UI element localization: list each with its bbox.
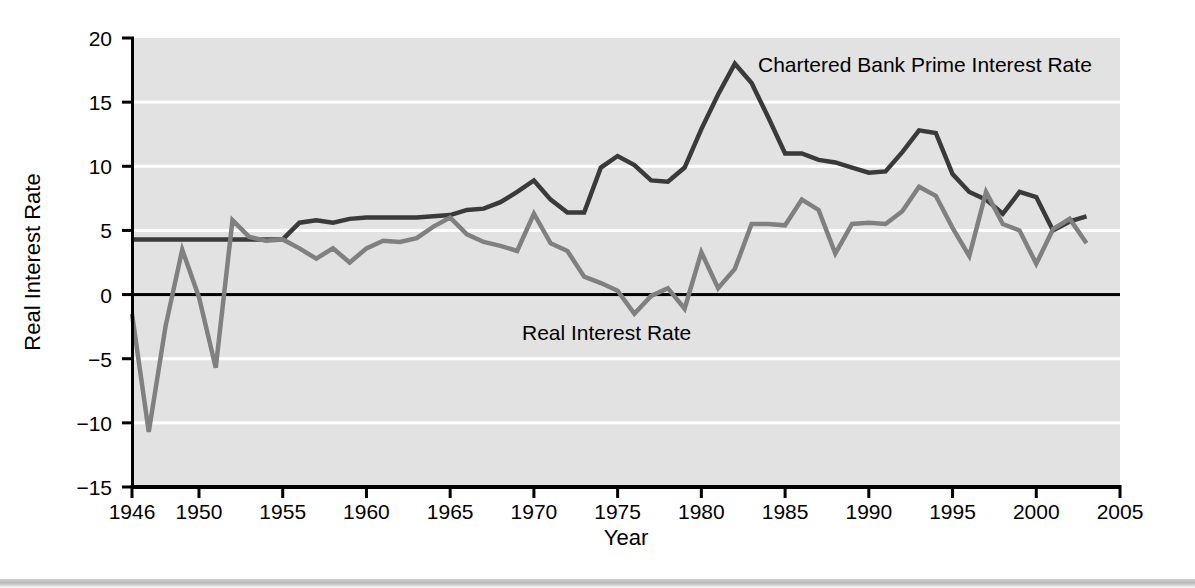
x-tick-label-1975: 1975 xyxy=(594,500,641,523)
y-tick-label-−5: −5 xyxy=(88,348,112,371)
x-tick-label-1960: 1960 xyxy=(343,500,390,523)
y-tick-15 xyxy=(122,101,134,104)
y-tick-−10 xyxy=(122,421,134,424)
y-tick-label-−10: −10 xyxy=(76,412,112,435)
y-axis-title: Real Interest Rate xyxy=(20,173,45,350)
x-tick-1965 xyxy=(449,485,452,498)
x-axis-tick-labels: 1946195019551960196519701975198019851990… xyxy=(109,500,1144,523)
y-tick-5 xyxy=(122,229,134,232)
y-tick-label-5: 5 xyxy=(100,219,112,242)
y-tick-0 xyxy=(122,293,134,296)
y-tick-10 xyxy=(122,165,134,168)
x-tick-2005 xyxy=(1119,485,1122,498)
real-rate-series-label: Real Interest Rate xyxy=(522,321,691,344)
x-tick-label-1995: 1995 xyxy=(929,500,976,523)
zero-line xyxy=(132,293,1120,296)
y-tick-label-−15: −15 xyxy=(76,476,112,499)
gridline-10 xyxy=(132,165,1120,168)
x-tick-1950 xyxy=(197,485,200,498)
x-tick-label-1985: 1985 xyxy=(762,500,809,523)
x-tick-label-2005: 2005 xyxy=(1097,500,1144,523)
plot-border-left xyxy=(131,37,134,488)
gridline--5 xyxy=(132,357,1120,360)
y-tick-label-20: 20 xyxy=(89,27,112,50)
x-tick-2000 xyxy=(1035,485,1038,498)
y-tick-−15 xyxy=(122,486,134,489)
x-tick-label-2000: 2000 xyxy=(1013,500,1060,523)
x-tick-label-1955: 1955 xyxy=(259,500,306,523)
x-tick-1975 xyxy=(616,485,619,498)
x-tick-label-1970: 1970 xyxy=(511,500,558,523)
x-tick-1970 xyxy=(532,485,535,498)
y-axis-tick-labels: 20151050−5−10−15 xyxy=(76,27,112,499)
x-tick-1960 xyxy=(365,485,368,498)
x-tick-1955 xyxy=(281,485,284,498)
x-axis-title: Year xyxy=(604,525,648,550)
gridline--10 xyxy=(132,421,1120,424)
plot-area xyxy=(122,37,1122,499)
x-tick-label-1965: 1965 xyxy=(427,500,474,523)
plot-background xyxy=(132,38,1120,487)
gridline-15 xyxy=(132,101,1120,104)
x-tick-1985 xyxy=(784,485,787,498)
x-tick-label-1950: 1950 xyxy=(176,500,223,523)
x-tick-1990 xyxy=(867,485,870,498)
figure-container: 1946195019551960196519701975198019851990… xyxy=(0,0,1195,588)
prime-rate-series-label: Chartered Bank Prime Interest Rate xyxy=(758,53,1092,76)
y-tick-−5 xyxy=(122,357,134,360)
y-tick-label-0: 0 xyxy=(100,284,112,307)
plot-border-bottom xyxy=(131,485,1121,489)
x-tick-label-1990: 1990 xyxy=(845,500,892,523)
gridline-5 xyxy=(132,229,1120,232)
x-tick-1995 xyxy=(951,485,954,498)
y-tick-label-10: 10 xyxy=(89,155,112,178)
y-tick-label-15: 15 xyxy=(89,91,112,114)
zero-reference-line xyxy=(132,293,1120,296)
x-tick-1980 xyxy=(700,485,703,498)
y-tick-20 xyxy=(122,37,134,40)
page-bottom-strip xyxy=(0,579,1195,588)
interest-rate-line-chart: 1946195019551960196519701975198019851990… xyxy=(0,0,1195,588)
x-tick-label-1980: 1980 xyxy=(678,500,725,523)
x-tick-label-1946: 1946 xyxy=(109,500,156,523)
